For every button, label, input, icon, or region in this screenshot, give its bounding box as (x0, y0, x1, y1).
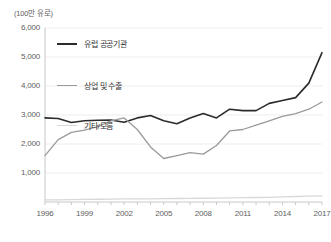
legend-swatch-icon (57, 85, 77, 86)
x-axis-tick-label: 2008 (188, 209, 218, 218)
legend-item-label: 기타/모름 (84, 120, 113, 131)
legend-item-0[interactable]: 유럽 공공기관 (57, 38, 127, 49)
series-line-2 (45, 196, 322, 200)
y-axis-tick-label: 6,000 (12, 23, 40, 32)
x-axis-tick-label: 2002 (109, 209, 139, 218)
y-axis-tick-label: 3,000 (12, 110, 40, 119)
y-axis-tick-label: 2,000 (12, 139, 40, 148)
y-axis-tick-label: 5,000 (12, 52, 40, 61)
x-axis-tick-label: 2011 (228, 209, 258, 218)
legend-item-2[interactable]: 기타/모름 (57, 120, 113, 131)
y-axis-tick-label: 1,000 (12, 168, 40, 177)
legend-item-label: 상업 및 수출 (84, 80, 122, 91)
x-axis-tick-label: 1996 (30, 209, 60, 218)
x-axis-tick-label: 2014 (267, 209, 297, 218)
legend-item-1[interactable]: 상업 및 수출 (57, 80, 122, 91)
legend-swatch-icon (57, 125, 77, 126)
legend-item-label: 유럽 공공기관 (84, 38, 127, 49)
legend-swatch-icon (57, 43, 77, 45)
line-chart: (100만 유로) 6,0005,0004,0003,0002,0001,000… (0, 0, 331, 242)
x-axis-tick-label: 2005 (149, 209, 179, 218)
x-axis-tick-label: 2017 (307, 209, 331, 218)
x-axis-tick-label: 1999 (70, 209, 100, 218)
plot-svg (0, 0, 331, 242)
y-axis-tick-label: 4,000 (12, 81, 40, 90)
plot-area: 6,0005,0004,0003,0002,0001,000 199619992… (0, 0, 331, 242)
